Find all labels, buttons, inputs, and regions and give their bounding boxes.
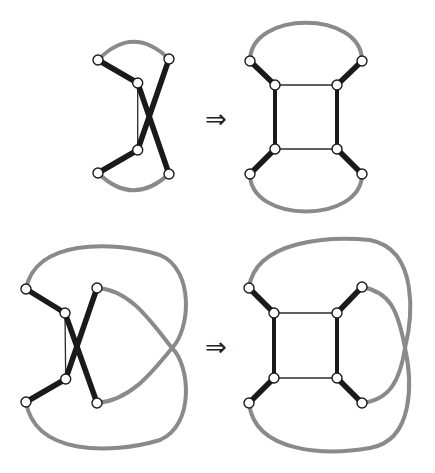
node: [269, 308, 279, 318]
graph-transformation-figure: ⇒ ⇒: [0, 0, 435, 473]
node: [93, 168, 103, 178]
node: [164, 169, 174, 179]
thick-edge: [98, 150, 138, 173]
implies-arrow-bottom: ⇒: [205, 332, 227, 362]
node: [357, 398, 367, 408]
node: [270, 144, 280, 154]
node: [92, 283, 102, 293]
gray-arc-bottom: [98, 173, 169, 190]
implies-arrow-top: ⇒: [205, 104, 227, 134]
node: [244, 283, 254, 293]
node: [60, 308, 70, 318]
node: [269, 373, 279, 383]
gray-loop-outer-bottom: [26, 288, 186, 449]
node: [21, 284, 31, 294]
thick-edge: [98, 60, 138, 83]
node: [93, 55, 103, 65]
node: [21, 397, 31, 407]
node: [270, 80, 280, 90]
panel-top-left: [93, 42, 174, 191]
node: [245, 56, 255, 66]
gray-loop-outer-top: [26, 246, 186, 403]
panel-bottom-right: [244, 239, 410, 451]
node: [357, 169, 367, 179]
thick-edge: [26, 379, 66, 402]
node: [357, 56, 367, 66]
gray-arc-top: [250, 23, 362, 61]
node: [92, 398, 102, 408]
node: [332, 373, 342, 383]
panel-bottom-left: [21, 246, 186, 448]
thick-edge: [26, 289, 65, 313]
node: [332, 308, 342, 318]
node: [164, 54, 174, 64]
node: [61, 374, 71, 384]
gray-arc-bottom: [250, 174, 362, 212]
node: [357, 282, 367, 292]
gray-arc-top: [98, 42, 169, 60]
node: [244, 398, 254, 408]
node: [332, 80, 342, 90]
node: [245, 169, 255, 179]
node: [133, 145, 143, 155]
node: [133, 78, 143, 88]
node: [332, 144, 342, 154]
thin-edge: [65, 313, 66, 379]
panel-top-right: [245, 23, 367, 212]
